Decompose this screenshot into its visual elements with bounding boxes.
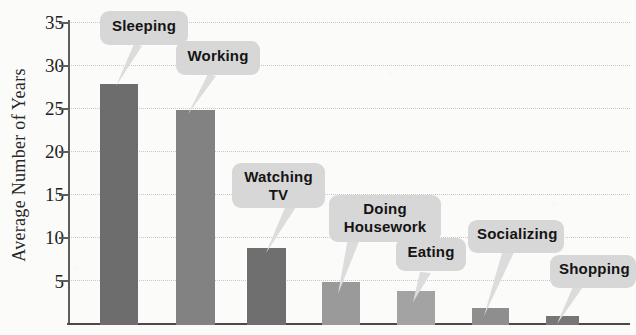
bar-watching-tv (247, 248, 286, 325)
y-tick-15 (59, 194, 69, 196)
callout-label-watching-tv-line2: TV (241, 186, 316, 204)
callout-tail-socializing (478, 246, 520, 316)
y-tick-35 (59, 22, 69, 24)
callout-tail-sleeping (104, 44, 144, 86)
callout-label-sleeping: Sleeping (112, 17, 176, 34)
callout-label-watching-tv-line1: Watching (241, 168, 316, 186)
callout-working: Working (176, 41, 260, 75)
callout-tail-working (178, 74, 220, 114)
callout-tail-watching-tv (258, 205, 300, 253)
callout-label-housework-line2: Housework (338, 218, 432, 236)
callout-sleeping: Sleeping (100, 11, 188, 45)
y-axis-title: Average Number of Years (9, 15, 30, 315)
callout-watching-tv: Watching TV (232, 163, 325, 208)
callout-label-eating: Eating (407, 243, 454, 260)
bar-sleeping (100, 84, 138, 325)
callout-label-shopping: Shopping (559, 260, 630, 277)
callout-tail-doing-housework (330, 238, 366, 294)
callout-socializing: Socializing (468, 220, 564, 253)
callout-tail-shopping (551, 282, 589, 324)
y-tick-20 (59, 151, 69, 153)
bar-working (176, 110, 215, 325)
gridline-20 (68, 151, 630, 152)
y-tick-10 (59, 237, 69, 239)
callout-label-socializing: Socializing (477, 225, 558, 242)
callout-shopping: Shopping (550, 255, 636, 288)
y-tick-5 (59, 280, 69, 282)
gridline-30 (68, 65, 630, 66)
callout-doing-housework: Doing Housework (329, 195, 441, 242)
cropped-title-strip (0, 0, 630, 10)
y-tick-30 (59, 65, 69, 67)
callout-label-working: Working (187, 47, 248, 64)
callout-tail-eating (404, 272, 436, 302)
y-tick-25 (59, 108, 69, 110)
callout-label-housework-line1: Doing (338, 200, 432, 218)
gridline-25 (68, 108, 630, 109)
callout-eating: Eating (396, 238, 466, 271)
